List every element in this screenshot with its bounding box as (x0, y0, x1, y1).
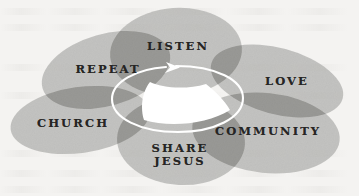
petal-label-line: COMMUNITY (215, 124, 321, 138)
petal-label-line: REPEAT (75, 62, 140, 76)
petal-label-share-jesus: SHAREJESUS (152, 142, 209, 168)
petal-label-repeat: REPEAT (75, 63, 140, 75)
petal-label-listen: LISTEN (147, 40, 209, 52)
petal-label-love: LOVE (265, 75, 309, 87)
petal-label-community: COMMUNITY (215, 125, 321, 137)
petal-label-line: CHURCH (37, 116, 109, 130)
petal-label-line: LOVE (265, 74, 309, 88)
discipleship-cycle-diagram: LISTENLOVECOMMUNITYSHAREJESUSCHURCHREPEA… (0, 0, 359, 196)
petal-label-church: CHURCH (37, 117, 109, 129)
petal-label-line: LISTEN (147, 39, 209, 53)
petal-label-line: JESUS (154, 154, 205, 168)
